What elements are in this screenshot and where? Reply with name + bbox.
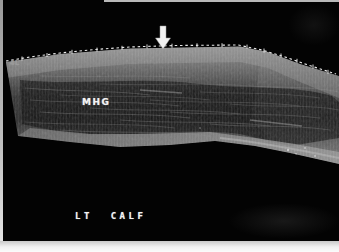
photo-edge-bottom	[0, 241, 339, 252]
photo-smudge	[288, 4, 339, 46]
exam-line-site: LT CALF	[75, 210, 146, 222]
ultrasound-photo: 4L MHG LT CALF POST-MED LONG	[0, 0, 339, 252]
muscle-label: MHG	[82, 97, 110, 107]
photo-edge-top	[104, 0, 339, 2]
photo-smudge	[228, 203, 339, 239]
scanline-texture	[0, 40, 339, 175]
down-arrow-icon	[156, 26, 171, 49]
probe-marker-label: 4L	[10, 59, 20, 67]
photo-edge-left	[0, 0, 3, 252]
